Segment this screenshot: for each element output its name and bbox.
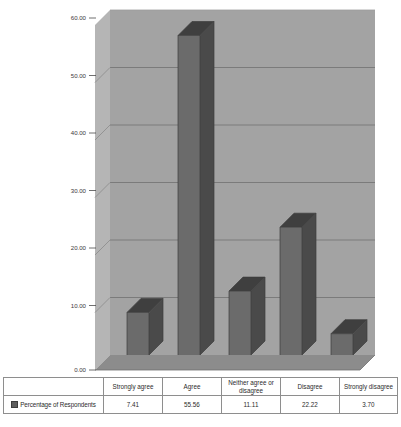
table-header-cell: Strongly agree	[104, 378, 163, 396]
ytick-label: 40.00	[71, 129, 87, 136]
data-table-wrapper: Strongly agree Agree Neither agree or di…	[3, 377, 397, 414]
legend-series-label: Percentage of Respondents	[4, 396, 104, 414]
ytick-label: 10.00	[71, 302, 87, 309]
ytick-label: 20.00	[71, 244, 87, 251]
table-header-cell: Neither agree or disagree	[222, 378, 281, 396]
table-value-cell: 55.56	[163, 396, 222, 414]
table-value-cell: 11.11	[222, 396, 281, 414]
y-axis-ticks	[89, 18, 96, 370]
ytick-label: 60.00	[71, 14, 87, 21]
bar-disagree	[280, 213, 316, 355]
table-value-cell: 22.22	[281, 396, 340, 414]
bar-chart-figure: 60.00 50.00 40.00 30.00 20.00 10.00 0.00	[0, 0, 401, 427]
table-value-cell: 7.41	[104, 396, 163, 414]
table-header-row: Strongly agree Agree Neither agree or di…	[4, 378, 398, 396]
table-corner-blank	[4, 378, 104, 396]
table-header-cell: Strongly disagree	[340, 378, 398, 396]
table-header-cell: Agree	[163, 378, 222, 396]
plot-svg: 60.00 50.00 40.00 30.00 20.00 10.00 0.00	[0, 0, 401, 380]
chart-floor	[95, 355, 375, 370]
ytick-label: 0.00	[74, 366, 86, 373]
plot-area: 60.00 50.00 40.00 30.00 20.00 10.00 0.00	[0, 0, 401, 380]
table-value-row: Percentage of Respondents 7.41 55.56 11.…	[4, 396, 398, 414]
bar-neither-agree-or-disagree	[229, 277, 265, 355]
bar-strongly-agree	[127, 298, 163, 355]
table-header-cell: Disagree	[281, 378, 340, 396]
data-table: Strongly agree Agree Neither agree or di…	[3, 377, 398, 414]
legend-swatch-icon	[11, 401, 18, 408]
legend-label-text: Percentage of Respondents	[20, 401, 96, 408]
y-axis-labels: 60.00 50.00 40.00 30.00 20.00 10.00 0.00	[71, 14, 87, 373]
table-value-cell: 3.70	[340, 396, 398, 414]
ytick-label: 30.00	[71, 187, 87, 194]
ytick-label: 50.00	[71, 72, 87, 79]
bar-agree	[178, 22, 214, 356]
